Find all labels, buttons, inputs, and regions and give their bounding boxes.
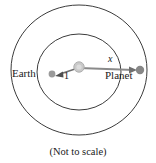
figure-caption: (Not to scale): [0, 146, 156, 157]
planet-label: Planet: [105, 70, 133, 81]
earth-dot-icon: [49, 71, 56, 78]
planet-distance-label: x: [108, 54, 112, 64]
left-arrow-icon: [55, 72, 64, 78]
earth-distance-label: 1: [64, 71, 69, 81]
orbit-diagram-svg: [0, 0, 156, 163]
earth-label: Earth: [12, 68, 36, 79]
orbit-diagram: Earth Planet 1 x (Not to scale): [0, 0, 156, 163]
sun-core-icon: [76, 64, 81, 69]
planet-dot-icon: [136, 66, 144, 74]
